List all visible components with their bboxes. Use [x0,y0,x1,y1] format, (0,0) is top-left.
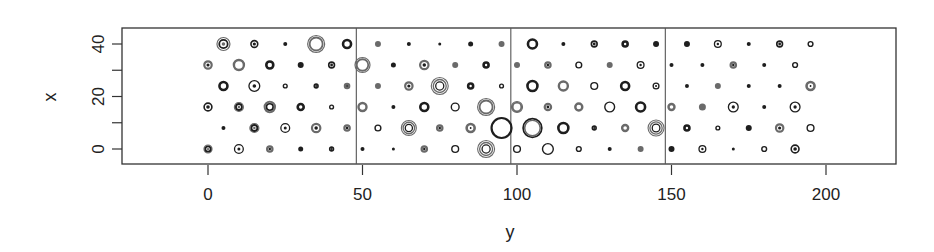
data-point [431,78,448,95]
data-point [478,141,495,158]
data-point [249,81,260,92]
data-point [608,147,612,151]
data-point [747,84,751,88]
data-point [234,60,244,70]
data-point [392,148,395,151]
data-point [298,147,303,152]
data-point [636,103,645,112]
data-point [298,104,304,110]
data-point [467,124,475,132]
data-point [605,102,615,112]
data-point [607,62,613,68]
panel-dividers [356,28,665,164]
data-point [527,81,537,91]
data-point [250,124,259,133]
data-point [283,84,287,88]
data-point [778,84,782,88]
data-point [251,41,258,48]
data-point [684,126,689,131]
data-point [401,121,416,136]
data-point [762,63,766,67]
data-point [267,146,272,151]
data-point [204,61,211,68]
data-point [219,82,227,90]
x-tick-label: 100 [503,185,531,204]
data-point [731,62,736,67]
data-point [204,145,212,153]
data-point [361,147,365,151]
data-point [451,103,459,111]
y-tick-label: 20 [89,87,108,106]
data-point [762,147,767,152]
data-point [793,63,798,68]
data-point [777,41,783,47]
data-point [523,119,542,138]
data-point [621,82,629,90]
plot-frame [122,28,896,164]
data-point [700,63,704,67]
data-point [298,62,304,68]
data-point [375,125,381,131]
data-point [484,63,489,68]
data-point [499,41,505,47]
data-point [715,83,721,89]
data-point [330,147,334,151]
data-point [747,42,751,46]
data-point [314,84,318,88]
data-point [545,104,551,110]
x-axis-title: y [506,222,515,242]
data-point [308,36,325,53]
scatter-chart: 050100150200 02040 y x [0,0,934,252]
x-axis: 050100150200 [203,165,840,204]
data-point [437,125,442,130]
data-point [732,148,735,151]
data-point [648,120,664,136]
data-point [344,125,349,130]
data-point [343,40,351,48]
data-point [776,124,783,131]
data-point [558,123,568,133]
plot-border [122,28,896,164]
data-point [512,102,523,113]
data-point [685,84,689,88]
data-point [391,105,395,109]
data-point [791,145,799,153]
data-point [728,102,738,112]
data-point [468,84,473,89]
data-point [591,41,597,47]
data-point [638,146,644,152]
data-point [591,83,598,90]
data-point [670,63,674,67]
x-tick-label: 0 [203,185,212,204]
data-point [684,41,690,47]
data-point [622,125,628,131]
data-point [355,58,370,73]
data-point [312,124,320,132]
data-point [345,84,349,88]
data-point [235,145,244,154]
data-point [592,126,596,130]
data-point [699,104,706,111]
data-point [808,42,813,47]
data-point [405,82,412,89]
data-point [478,99,495,116]
data-point [407,42,411,46]
data-point [330,105,334,109]
data-point [204,103,212,111]
data-point [528,40,537,49]
data-point [500,84,504,88]
data-point [452,62,458,68]
data-points [204,36,815,158]
data-point [653,83,659,89]
data-point [420,103,428,111]
data-point [221,126,225,130]
data-point [234,103,243,112]
data-point [637,62,644,69]
data-point [281,124,290,133]
data-point [559,82,568,91]
data-point [669,146,675,152]
data-point [391,63,396,68]
data-point [653,41,659,47]
data-point [266,62,273,69]
data-point [716,126,720,130]
